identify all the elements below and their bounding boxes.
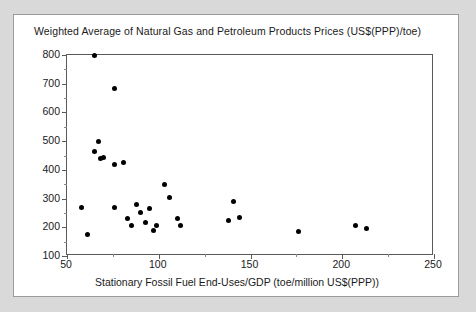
data-point <box>364 226 369 231</box>
x-tick-minor <box>113 254 114 257</box>
y-tick-major <box>62 199 67 200</box>
y-tick-minor <box>64 69 67 70</box>
plot-area <box>66 54 433 255</box>
y-tick-label: 800 <box>42 48 60 60</box>
figure-frame: Weighted Average of Natural Gas and Petr… <box>13 14 459 297</box>
data-point <box>296 229 301 234</box>
data-point <box>85 232 90 237</box>
y-tick-label: 500 <box>42 134 60 146</box>
data-point <box>121 160 126 165</box>
data-point <box>154 223 159 228</box>
data-point <box>96 139 101 144</box>
data-point <box>92 53 97 58</box>
y-tick-major <box>62 227 67 228</box>
y-tick-major <box>62 55 67 56</box>
data-point <box>112 205 117 210</box>
data-point <box>92 149 97 154</box>
data-point <box>129 223 134 228</box>
x-tick-minor <box>388 254 389 257</box>
x-tick-minor <box>205 254 206 257</box>
plot-wrapper: 100200300400500600700800 50100150200250 … <box>14 15 460 298</box>
data-point <box>112 86 117 91</box>
data-point <box>151 228 156 233</box>
y-tick-major <box>62 170 67 171</box>
data-point <box>167 195 172 200</box>
y-tick-minor <box>64 98 67 99</box>
x-tick-label: 250 <box>424 258 442 270</box>
y-tick-major <box>62 141 67 142</box>
data-point <box>143 220 148 225</box>
y-tick-label: 400 <box>42 163 60 175</box>
y-tick-minor <box>64 156 67 157</box>
x-axis-title: Stationary Fossil Fuel End-Uses/GDP (toe… <box>14 276 460 288</box>
data-point <box>134 202 139 207</box>
data-point <box>231 199 236 204</box>
y-tick-label: 100 <box>42 249 60 261</box>
y-tick-major <box>62 84 67 85</box>
data-point <box>162 182 167 187</box>
data-point <box>147 206 152 211</box>
x-tick-label: 200 <box>332 258 350 270</box>
y-tick-minor <box>64 213 67 214</box>
y-tick-label: 200 <box>42 220 60 232</box>
data-point <box>138 210 143 215</box>
data-point <box>237 215 242 220</box>
data-point <box>79 205 84 210</box>
data-point <box>125 216 130 221</box>
y-tick-label: 600 <box>42 105 60 117</box>
data-point <box>101 155 106 160</box>
x-axis-labels: 50100150200250 <box>66 258 433 274</box>
data-point <box>353 223 358 228</box>
x-tick-label: 100 <box>149 258 167 270</box>
y-axis-labels: 100200300400500600700800 <box>14 54 60 255</box>
x-tick-minor <box>296 254 297 257</box>
x-tick-label: 50 <box>60 258 72 270</box>
y-tick-label: 300 <box>42 192 60 204</box>
data-point <box>112 162 117 167</box>
data-point <box>226 218 231 223</box>
y-tick-minor <box>64 127 67 128</box>
y-tick-major <box>62 112 67 113</box>
x-tick-label: 150 <box>241 258 259 270</box>
y-tick-minor <box>64 184 67 185</box>
data-point <box>178 223 183 228</box>
data-point <box>175 216 180 221</box>
y-tick-label: 700 <box>42 77 60 89</box>
y-tick-minor <box>64 242 67 243</box>
